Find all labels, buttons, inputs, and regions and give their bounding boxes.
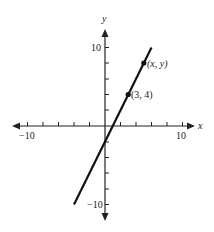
point-3-4-label: (3, 4) [131, 89, 153, 101]
x-axis-left-arrow-icon [12, 123, 20, 130]
y-axis-up-arrow-icon [102, 29, 109, 37]
x-max-label: 10 [176, 130, 186, 141]
point-x-y-label: (x, y) [147, 58, 168, 70]
point-x-y [141, 60, 146, 65]
y-axis-label: y [101, 13, 107, 24]
y-max-label: 10 [91, 42, 101, 53]
y-axis-down-arrow-icon [102, 213, 109, 221]
y-min-label: −10 [87, 199, 103, 210]
x-axis-label: x [197, 120, 203, 131]
coordinate-plane: (3, 4) (x, y) y x −10 10 10 −10 [0, 0, 214, 232]
x-axis-right-arrow-icon [187, 123, 195, 130]
x-min-label: −10 [19, 130, 35, 141]
